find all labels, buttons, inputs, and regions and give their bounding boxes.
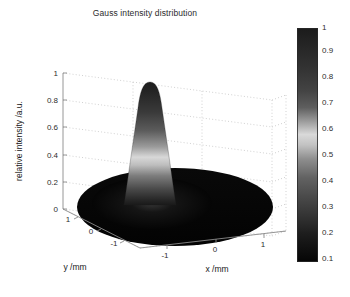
x-tick-label-1: 1 bbox=[261, 240, 266, 249]
colorbar-tick-0-3: 0.3 bbox=[322, 203, 333, 211]
z-axis-label: relative intensity /a.u. bbox=[14, 101, 24, 181]
colorbar-tick-0-7: 0.7 bbox=[322, 99, 333, 107]
figure-canvas: Gauss intensity distribution bbox=[0, 0, 350, 297]
z-axis-ticks bbox=[63, 73, 67, 209]
colorbar-tick-0-9: 0.9 bbox=[322, 47, 333, 55]
colorbar-tick-0-6: 0.6 bbox=[322, 125, 333, 133]
colorbar-tick-0-8: 0.8 bbox=[322, 73, 333, 81]
colorbar-tick-1: 1 bbox=[322, 24, 326, 32]
y-axis-label: y /mm bbox=[63, 262, 86, 272]
y-tick-label-minus-1: -1 bbox=[110, 239, 118, 248]
z-tick-label-0-6: 0.6 bbox=[47, 123, 59, 132]
colorbar-tick-0-1: 0.1 bbox=[322, 255, 333, 263]
y-tick-label-0: 0 bbox=[89, 227, 94, 236]
colorbar-tick-0-5: 0.5 bbox=[322, 151, 333, 159]
z-tick-label-0-8: 0.8 bbox=[47, 96, 59, 105]
x-tick-label-0: 0 bbox=[213, 245, 218, 254]
x-tick-label-minus-1: -1 bbox=[161, 251, 169, 260]
y-tick-label-1: 1 bbox=[66, 215, 71, 224]
colorbar-tick-0-2: 0.2 bbox=[322, 229, 333, 237]
z-tick-label-0-4: 0.4 bbox=[47, 151, 59, 160]
colorbar-gradient bbox=[297, 28, 318, 262]
z-tick-label-1: 1 bbox=[54, 69, 59, 78]
z-tick-label-0-2: 0.2 bbox=[47, 178, 59, 187]
x-axis-label: x /mm bbox=[205, 264, 228, 274]
colorbar bbox=[297, 28, 318, 262]
colorbar-tick-0-4: 0.4 bbox=[322, 177, 333, 185]
z-tick-label-0: 0 bbox=[54, 205, 59, 214]
grid-lines-right-wall bbox=[272, 95, 286, 236]
